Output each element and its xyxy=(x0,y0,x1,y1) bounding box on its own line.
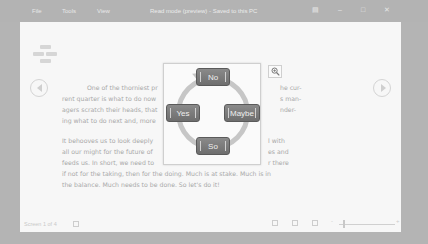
cycle-node-maybe[interactable]: Maybe xyxy=(224,104,260,122)
zoom-in-status-button[interactable]: + xyxy=(396,218,400,224)
paragraph-1-line-1: One of the thorniest pr xyxy=(87,82,158,93)
minimize-icon[interactable]: – xyxy=(338,6,342,13)
zoom-in-button[interactable] xyxy=(268,65,282,78)
paragraph-2-right-1: l with xyxy=(268,135,285,146)
paragraph-2-line-3: feeds us. In short, we need to xyxy=(62,157,154,168)
paragraph-2-right-2: es and xyxy=(268,146,289,157)
document-graphic-icon xyxy=(33,45,59,69)
paragraph-1-line-2: rent quarter is what to do now xyxy=(62,93,156,104)
track-changes-icon[interactable] xyxy=(73,221,79,227)
next-page-icon xyxy=(381,84,386,92)
previous-page-icon xyxy=(37,84,42,92)
cycle-node-so[interactable]: So xyxy=(196,137,230,155)
page-indicator: Screen 1 of 4 xyxy=(24,221,57,227)
paragraph-2-right-3: r there xyxy=(268,157,289,168)
smartart-zoom-popup: No Yes Maybe So xyxy=(163,63,261,165)
close-icon[interactable]: ✕ xyxy=(384,6,390,14)
read-mode-icon[interactable] xyxy=(272,220,278,226)
window-title: Read mode (preview) - Saved to this PC xyxy=(150,8,257,14)
paragraph-1-right-2: s man- xyxy=(280,93,301,104)
paragraph-2-line-5: the balance. Much needs to be done. So l… xyxy=(62,179,220,190)
zoom-slider[interactable] xyxy=(339,224,395,225)
menu-tools[interactable]: Tools xyxy=(62,8,76,14)
paragraph-2-line-1: It behooves us to look deeply xyxy=(62,135,153,146)
menu-file[interactable]: File xyxy=(32,8,42,14)
paragraph-1-right-3: nder- xyxy=(280,104,296,115)
next-page-button[interactable] xyxy=(373,79,391,97)
maximize-icon[interactable]: □ xyxy=(361,6,365,13)
print-layout-icon[interactable] xyxy=(292,220,298,226)
cycle-node-yes[interactable]: Yes xyxy=(166,104,200,122)
paragraph-1-right-1: he cur- xyxy=(280,82,301,93)
zoom-in-icon xyxy=(271,67,280,76)
paragraph-2-line-4: if not for the taking, then for the doin… xyxy=(62,168,271,179)
web-layout-icon[interactable] xyxy=(312,220,318,226)
previous-page-button[interactable] xyxy=(30,79,48,97)
layout-icon[interactable]: ▤ xyxy=(312,6,319,14)
menu-view[interactable]: View xyxy=(97,8,110,14)
zoom-slider-thumb[interactable] xyxy=(343,220,345,228)
paragraph-1-line-3: agers scratch their heads, that xyxy=(62,104,158,115)
paragraph-2-line-2: all our might for the future of xyxy=(62,146,153,157)
title-bar: File Tools View Read mode (preview) - Sa… xyxy=(0,0,428,22)
zoom-out-button[interactable]: - xyxy=(331,218,333,224)
cycle-node-no[interactable]: No xyxy=(196,68,230,86)
paragraph-1-line-4: ing what to do next and, more xyxy=(62,115,156,126)
